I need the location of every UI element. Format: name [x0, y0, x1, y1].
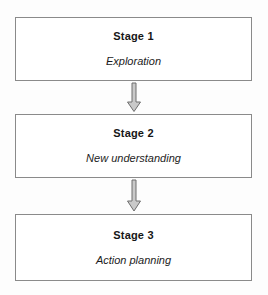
stage-box-3: Stage 3 Action planning — [15, 214, 252, 281]
stage-2-title: Stage 2 — [113, 127, 154, 140]
stage-flow-diagram: Stage 1 Exploration Stage 2 New understa… — [0, 0, 268, 295]
stage-3-caption: Action planning — [96, 254, 171, 267]
stage-3-title: Stage 3 — [113, 229, 154, 242]
down-arrow-glyph — [125, 178, 143, 214]
down-arrow-glyph — [125, 81, 143, 114]
stage-1-caption: Exploration — [106, 55, 161, 68]
stage-box-2: Stage 2 New understanding — [15, 114, 252, 178]
down-arrow-icon — [125, 178, 143, 214]
down-arrow-icon — [125, 81, 143, 114]
stage-box-1: Stage 1 Exploration — [15, 17, 252, 81]
stage-1-title: Stage 1 — [113, 30, 154, 43]
down-arrow-shape — [128, 180, 141, 211]
down-arrow-shape — [128, 83, 141, 112]
stage-2-caption: New understanding — [86, 152, 181, 165]
